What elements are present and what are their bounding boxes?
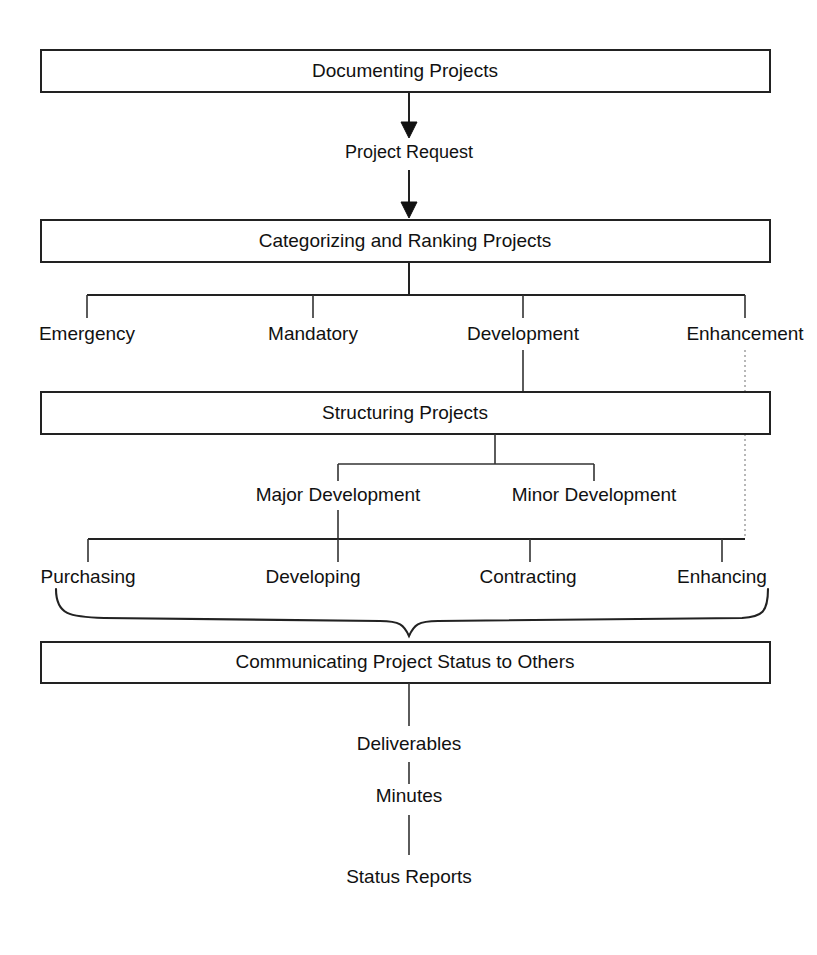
node-deliverables: Deliverables [357,733,462,754]
box-structuring-projects-label: Structuring Projects [322,402,488,423]
arrowhead-down-icon [401,122,417,138]
node-minor-development: Minor Development [512,484,677,505]
box-communicating-project-status: Communicating Project Status to Others [41,642,770,683]
box-structuring-projects: Structuring Projects [41,392,770,434]
flowchart-canvas: Documenting Projects Project Request Cat… [0,0,817,955]
box-categorizing-ranking-projects-label: Categorizing and Ranking Projects [259,230,552,251]
box-communicating-project-status-label: Communicating Project Status to Others [236,651,575,672]
node-enhancing: Enhancing [677,566,767,587]
node-purchasing: Purchasing [40,566,135,587]
node-major-development: Major Development [256,484,421,505]
flowchart-svg: Documenting Projects Project Request Cat… [0,0,817,955]
node-development: Development [467,323,580,344]
connector-categorizing-fanout [87,262,745,318]
node-contracting: Contracting [479,566,576,587]
node-enhancement: Enhancement [686,323,804,344]
connector-activities-fanout [88,539,745,562]
node-status-reports: Status Reports [346,866,472,887]
connector-structuring-fanout [338,434,594,481]
brace-activities-to-communicating [56,589,768,636]
node-minutes: Minutes [376,785,443,806]
node-developing: Developing [265,566,360,587]
connector-documenting-to-request [401,92,417,138]
box-documenting-projects: Documenting Projects [41,50,770,92]
flow-label-project-request: Project Request [345,142,473,162]
arrowhead-down-icon [401,202,417,218]
node-emergency: Emergency [39,323,136,344]
node-mandatory: Mandatory [268,323,358,344]
box-documenting-projects-label: Documenting Projects [312,60,498,81]
box-categorizing-ranking-projects: Categorizing and Ranking Projects [41,220,770,262]
connector-request-to-categorizing [401,170,417,218]
